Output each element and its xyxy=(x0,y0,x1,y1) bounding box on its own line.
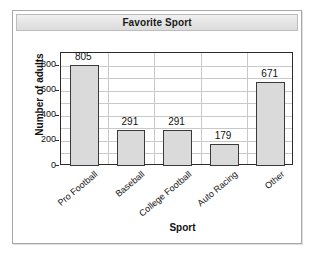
y-axis-tick-mark xyxy=(55,90,59,91)
bar-value-label: 805 xyxy=(60,51,107,62)
chart-panel: Favorite Sport Number of adults 02004006… xyxy=(12,10,302,244)
page-title: Favorite Sport xyxy=(122,18,191,28)
bar-other xyxy=(256,82,285,166)
chart-figure: Number of adults 0200400600800 805291291… xyxy=(13,33,301,243)
bar-pro-football xyxy=(70,65,99,166)
screenshot-root: Favorite Sport Number of adults 02004006… xyxy=(0,0,314,255)
bar-baseball xyxy=(117,130,146,167)
y-axis-tick-label: 600 xyxy=(32,85,56,94)
y-axis-tick-label: 400 xyxy=(32,110,56,119)
bar-college-football xyxy=(163,130,192,167)
y-axis-tick-label: 800 xyxy=(32,60,56,69)
y-axis-tick-label: 0 xyxy=(32,161,56,170)
y-axis-tick-mark xyxy=(55,115,59,116)
bar-auto-racing xyxy=(210,144,239,167)
y-axis-tick-label: 200 xyxy=(32,135,56,144)
bar-value-label: 671 xyxy=(246,68,293,79)
y-axis-tick-mark xyxy=(55,65,59,66)
x-axis-title: Sport xyxy=(60,222,305,233)
bar-value-label: 291 xyxy=(107,116,154,127)
y-axis-tick-mark xyxy=(55,165,59,166)
bar-value-label: 179 xyxy=(200,130,247,141)
bar-value-label: 291 xyxy=(153,116,200,127)
chart-title-bar: Favorite Sport xyxy=(16,14,298,31)
y-axis-tick-mark xyxy=(55,140,59,141)
